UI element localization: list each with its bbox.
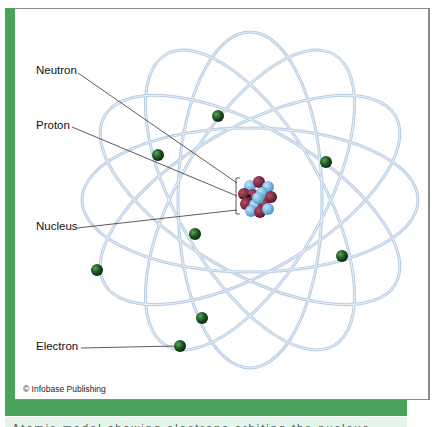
electron-leader-line xyxy=(81,346,176,348)
electron-6 xyxy=(91,264,103,276)
electron-7 xyxy=(196,312,208,324)
electrons xyxy=(91,110,348,352)
electron-8 xyxy=(174,340,186,352)
proton-label: Proton xyxy=(36,119,70,131)
electron-4 xyxy=(189,228,201,240)
electron-label: Electron xyxy=(36,340,78,352)
electron-5 xyxy=(336,250,348,262)
copyright-credit: © Infobase Publishing xyxy=(23,384,106,394)
electron-2 xyxy=(152,149,164,161)
electron-3 xyxy=(320,156,332,168)
nucleus-leader-line xyxy=(77,210,237,228)
neutron-label: Neutron xyxy=(36,64,77,76)
nucleus xyxy=(238,176,277,218)
nucleus-label: Nucleus xyxy=(36,220,78,232)
electron-1 xyxy=(212,110,224,122)
